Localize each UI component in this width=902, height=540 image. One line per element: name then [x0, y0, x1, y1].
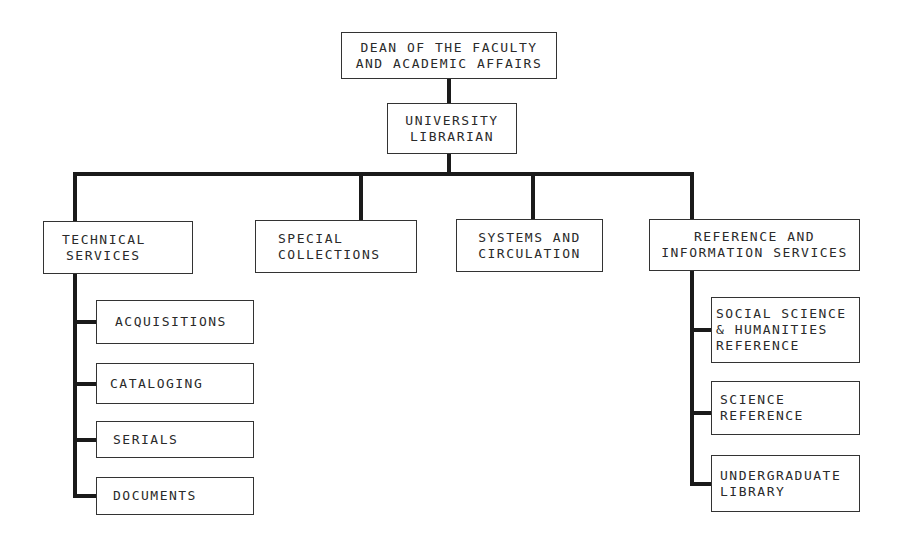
connector-systems [531, 172, 535, 220]
node-label: UNIVERSITY [405, 113, 498, 129]
node-label: REFERENCE [720, 408, 804, 424]
node-social-science-humanities: SOCIAL SCIENCE & HUMANITIES REFERENCE [711, 297, 860, 363]
node-label: REFERENCE [716, 338, 800, 354]
node-label: SOCIAL SCIENCE [716, 306, 847, 322]
node-label: SYSTEMS AND [478, 230, 581, 246]
node-label: SPECIAL [278, 231, 343, 247]
connector-dean-librarian [447, 78, 451, 104]
node-label: REFERENCE AND [694, 229, 815, 245]
node-dean: DEAN OF THE FACULTY AND ACADEMIC AFFAIRS [341, 32, 557, 79]
connector-undergraduate [690, 482, 712, 486]
node-science-reference: SCIENCE REFERENCE [711, 381, 860, 435]
node-special-collections: SPECIAL COLLECTIONS [255, 220, 417, 273]
node-label: LIBRARY [720, 484, 785, 500]
connector-technical [73, 172, 77, 222]
node-label: ACQUISITIONS [115, 314, 227, 330]
department-bar [73, 172, 694, 176]
node-label: AND ACADEMIC AFFAIRS [356, 56, 543, 72]
connector-acquisitions [73, 320, 97, 324]
connector-documents [73, 494, 97, 498]
reference-subtree-spine [690, 270, 694, 486]
node-label: COLLECTIONS [278, 247, 381, 263]
node-serials: SERIALS [96, 421, 254, 458]
connector-cataloging [73, 382, 97, 386]
node-systems-circulation: SYSTEMS AND CIRCULATION [456, 219, 603, 272]
node-label: SERVICES [62, 248, 141, 264]
node-label: DOCUMENTS [113, 488, 197, 504]
node-label: SERIALS [113, 432, 178, 448]
connector-science [690, 411, 712, 415]
node-label: SCIENCE [720, 392, 785, 408]
node-technical-services: TECHNICAL SERVICES [43, 221, 193, 274]
node-label: LIBRARIAN [410, 129, 494, 145]
node-cataloging: CATALOGING [96, 363, 254, 404]
node-label: INFORMATION SERVICES [661, 245, 848, 261]
connector-social-science [690, 328, 712, 332]
node-documents: DOCUMENTS [96, 477, 254, 515]
node-university-librarian: UNIVERSITY LIBRARIAN [387, 103, 517, 154]
node-label: TECHNICAL [62, 232, 146, 248]
node-label: CIRCULATION [478, 246, 581, 262]
node-label: & HUMANITIES [716, 322, 828, 338]
node-acquisitions: ACQUISITIONS [96, 300, 254, 344]
connector-reference [690, 172, 694, 220]
node-reference-information: REFERENCE AND INFORMATION SERVICES [649, 219, 860, 271]
node-label: UNDERGRADUATE [720, 468, 841, 484]
node-label: DEAN OF THE FACULTY [360, 40, 537, 56]
connector-special [359, 172, 363, 221]
node-undergraduate-library: UNDERGRADUATE LIBRARY [711, 455, 860, 512]
node-label: CATALOGING [110, 376, 203, 392]
connector-serials [73, 438, 97, 442]
